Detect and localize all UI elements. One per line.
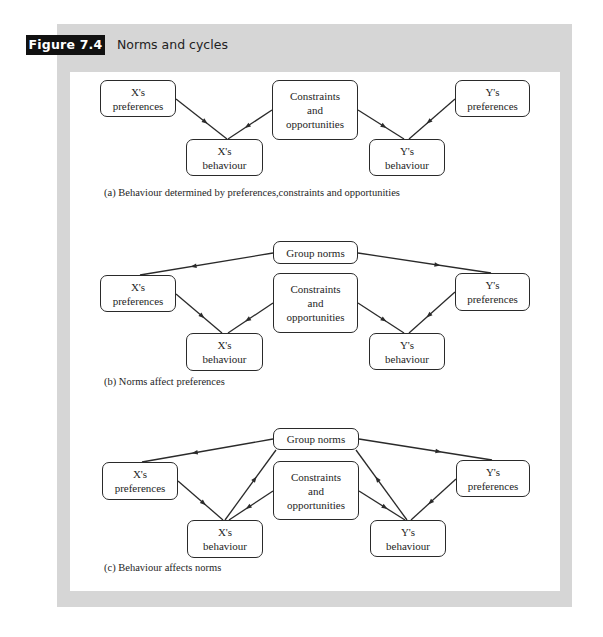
node-x-beh-b: X's behaviour: [186, 333, 263, 371]
arrowhead-icon: [380, 123, 386, 128]
arrow-b-4: [358, 303, 404, 333]
node-norms-b: Group norms: [273, 241, 358, 264]
arrowhead-icon: [381, 504, 387, 509]
arrow-b-1: [358, 253, 491, 273]
node-x-pref-c: X's preferences: [102, 462, 178, 500]
panel-caption-c: (c) Behaviour affects norms: [104, 562, 221, 573]
arrow-c-0: [142, 439, 273, 462]
arrow-c-1: [359, 439, 492, 460]
arrowhead-icon: [245, 123, 251, 128]
arrowhead-icon: [434, 262, 440, 267]
panel-caption-a: (a) Behaviour determined by preferences,…: [104, 187, 400, 198]
node-x-pref-a: X's preferences: [100, 80, 176, 117]
node-y-pref-b: Y's preferences: [455, 273, 530, 311]
arrow-a-3: [409, 99, 455, 139]
panel-caption-b: (b) Norms affect preferences: [104, 376, 225, 387]
arrow-b-5: [409, 292, 455, 333]
arrowhead-icon: [192, 450, 198, 455]
arrowhead-icon: [191, 263, 197, 268]
node-x-pref-b: X's preferences: [100, 275, 176, 312]
arrow-a-2: [358, 110, 404, 139]
arrow-c-7: [356, 450, 407, 520]
arrow-a-0: [176, 99, 227, 139]
node-y-beh-c: Y's behaviour: [370, 520, 446, 557]
node-constr-a: Constraints and opportunities: [272, 80, 358, 140]
node-y-beh-a: Y's behaviour: [369, 139, 445, 176]
arrow-b-0: [140, 253, 273, 275]
arrow-b-3: [228, 303, 273, 333]
node-constr-b: Constraints and opportunities: [273, 273, 358, 333]
arrow-c-6: [225, 450, 276, 520]
node-constr-c: Constraints and opportunities: [273, 461, 359, 520]
node-x-beh-a: X's behaviour: [186, 139, 263, 176]
node-y-pref-c: Y's preferences: [456, 460, 530, 497]
arrow-c-4: [359, 491, 405, 520]
arrowhead-icon: [246, 504, 252, 509]
arrowhead-icon: [380, 316, 386, 321]
arrow-c-2: [178, 481, 223, 520]
arrow-c-5: [411, 479, 456, 520]
node-norms-c: Group norms: [273, 428, 359, 450]
node-y-pref-a: Y's preferences: [455, 80, 530, 117]
arrow-a-1: [228, 110, 272, 139]
arrow-b-2: [176, 294, 222, 333]
node-y-beh-b: Y's behaviour: [369, 333, 445, 370]
arrowhead-icon: [245, 316, 251, 321]
arrowhead-icon: [435, 449, 441, 454]
node-x-beh-c: X's behaviour: [187, 520, 263, 558]
